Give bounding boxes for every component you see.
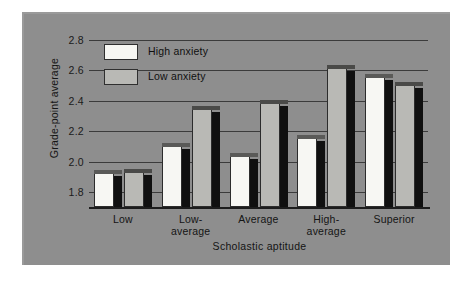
x-axis-tick-label-line: High-	[292, 214, 360, 226]
bar-face	[192, 108, 212, 207]
bar-side-shadow	[415, 88, 423, 207]
bar-low-anxiety	[395, 84, 415, 207]
x-axis-title: Scholastic aptitude	[89, 240, 430, 252]
bar-top-shadow	[230, 153, 258, 157]
bar-low-anxiety	[124, 171, 144, 207]
x-axis-tick-label: Low-average	[157, 214, 225, 237]
x-axis-tick-label: Superior	[360, 214, 428, 226]
bar-top-shadow	[260, 100, 288, 104]
bar-top-shadow	[395, 82, 423, 86]
bar-side-shadow	[347, 71, 355, 207]
x-axis-tick-label-line: average	[157, 226, 225, 238]
x-axis-tick-label-line: average	[292, 226, 360, 238]
y-axis-tick-label: 1.8	[69, 186, 85, 198]
bar-high-anxiety	[365, 76, 385, 207]
bar-group	[162, 40, 220, 207]
y-axis-tick-label: 2.8	[69, 34, 85, 46]
bar-face	[260, 102, 280, 207]
legend-swatch-high-anxiety	[104, 44, 138, 60]
bar-group	[365, 40, 423, 207]
bar-side-shadow	[250, 159, 258, 207]
bar-side-shadow	[385, 80, 393, 207]
bar-face	[94, 172, 114, 207]
bar-top-shadow	[365, 74, 393, 78]
bar-top-shadow	[327, 65, 355, 69]
x-axis-tick-label-line: Low-	[157, 214, 225, 226]
bar-side-shadow	[144, 175, 152, 207]
bar-top-shadow	[297, 135, 325, 139]
bar-low-anxiety	[260, 102, 280, 207]
bar-high-anxiety	[297, 137, 317, 207]
bar-face	[327, 67, 347, 207]
bar-top-shadow	[94, 170, 122, 174]
legend-label-high-anxiety: High anxiety	[148, 45, 208, 57]
bar-high-anxiety	[162, 145, 182, 207]
bar-side-shadow	[317, 141, 325, 207]
plot-area	[89, 40, 428, 207]
bar-side-shadow	[182, 149, 190, 207]
bar-top-shadow	[192, 106, 220, 110]
bar-face	[162, 145, 182, 207]
bar-group	[297, 40, 355, 207]
chart-figure: Grade-point average 1.82.02.22.42.62.8 H…	[0, 0, 469, 281]
bar-group	[94, 40, 152, 207]
bar-side-shadow	[212, 112, 220, 207]
bar-top-shadow	[162, 143, 190, 147]
x-axis-tick-label: High-average	[292, 214, 360, 237]
bar-high-anxiety	[230, 155, 250, 207]
y-axis-tick-labels: 1.82.02.22.42.62.8	[54, 40, 84, 207]
bar-low-anxiety	[192, 108, 212, 207]
bar-top-shadow	[124, 169, 152, 173]
bar-low-anxiety	[327, 67, 347, 207]
bar-high-anxiety	[94, 172, 114, 207]
bar-face	[297, 137, 317, 207]
bar-side-shadow	[280, 106, 288, 207]
bar-face	[230, 155, 250, 207]
x-axis-line	[89, 207, 430, 209]
y-axis-tick-label: 2.6	[69, 64, 85, 76]
legend-label-low-anxiety: Low anxiety	[148, 70, 206, 82]
y-axis-tick-label: 2.0	[69, 156, 85, 168]
legend-swatch-low-anxiety	[104, 69, 138, 85]
bar-face	[365, 76, 385, 207]
x-axis-tick-label: Low	[89, 214, 157, 226]
bar-face	[395, 84, 415, 207]
y-axis-tick-label: 2.4	[69, 95, 85, 107]
y-axis-tick-label: 2.2	[69, 125, 85, 137]
bar-side-shadow	[114, 176, 122, 207]
bar-face	[124, 171, 144, 207]
x-axis-tick-label: Average	[225, 214, 293, 226]
bar-group	[230, 40, 288, 207]
